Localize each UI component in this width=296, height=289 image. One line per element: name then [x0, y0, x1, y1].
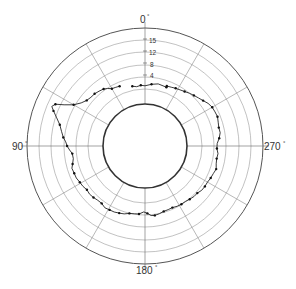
- svg-text:°: °: [283, 140, 286, 146]
- data-point: [193, 94, 195, 96]
- data-point: [101, 202, 103, 204]
- data-point: [79, 181, 81, 183]
- angle-label-270: 270 °: [264, 140, 286, 152]
- data-point: [92, 196, 94, 198]
- data-point: [128, 212, 130, 214]
- data-point: [150, 83, 152, 85]
- data-point: [163, 210, 165, 212]
- data-point: [86, 99, 88, 101]
- data-point: [171, 206, 173, 208]
- inner-circle: [103, 104, 187, 188]
- data-point: [175, 87, 177, 89]
- data-point: [131, 85, 133, 87]
- data-point: [146, 212, 148, 214]
- data-point: [196, 192, 198, 194]
- polar-chart: 15 12 8 4 0 ° 90 ° 270 ° 180 °: [0, 0, 296, 289]
- data-point: [54, 103, 56, 105]
- data-point: [218, 137, 220, 139]
- svg-text:°: °: [147, 13, 150, 19]
- angle-label-180: 180 °: [136, 264, 158, 276]
- tick-label-12: 12: [149, 49, 157, 56]
- data-point: [211, 106, 213, 108]
- svg-text:270: 270: [264, 141, 281, 152]
- data-point: [86, 189, 88, 191]
- svg-text:180: 180: [136, 265, 153, 276]
- tick-label-15: 15: [149, 37, 157, 44]
- data-point: [62, 136, 64, 138]
- data-point: [218, 126, 220, 128]
- data-point: [118, 85, 120, 87]
- svg-text:90: 90: [12, 141, 24, 152]
- data-point: [73, 172, 75, 174]
- data-point: [166, 85, 168, 87]
- data-point: [154, 214, 156, 216]
- series-line: [132, 84, 166, 87]
- data-point: [180, 203, 182, 205]
- tick-label-8: 8: [150, 61, 154, 68]
- angle-label-0: 0 °: [140, 13, 150, 25]
- data-point: [183, 90, 185, 92]
- grid-spoke: [86, 182, 124, 248]
- grid-spoke: [43, 167, 109, 205]
- grid-spoke: [166, 44, 204, 110]
- data-point: [108, 209, 110, 211]
- tick-label-4: 4: [150, 72, 154, 79]
- data-point: [71, 152, 73, 154]
- data-point: [216, 157, 218, 159]
- data-point: [216, 116, 218, 118]
- data-point: [215, 168, 217, 170]
- data-point: [102, 88, 104, 90]
- data-point: [140, 84, 142, 86]
- data-point: [216, 147, 218, 149]
- data-point: [52, 110, 54, 112]
- grid-spoke: [86, 44, 124, 110]
- data-point: [71, 163, 73, 165]
- data-point: [66, 145, 68, 147]
- svg-text:0: 0: [140, 14, 146, 25]
- data-point: [93, 93, 95, 95]
- grid-spoke: [181, 87, 247, 125]
- svg-text:°: °: [155, 264, 158, 270]
- data-point: [189, 198, 191, 200]
- data-point: [138, 213, 140, 215]
- data-point: [118, 212, 120, 214]
- data-point: [202, 99, 204, 101]
- data-point: [111, 88, 113, 90]
- data-point: [210, 177, 212, 179]
- data-point: [204, 185, 206, 187]
- data-point: [59, 124, 61, 126]
- data-point: [72, 104, 74, 106]
